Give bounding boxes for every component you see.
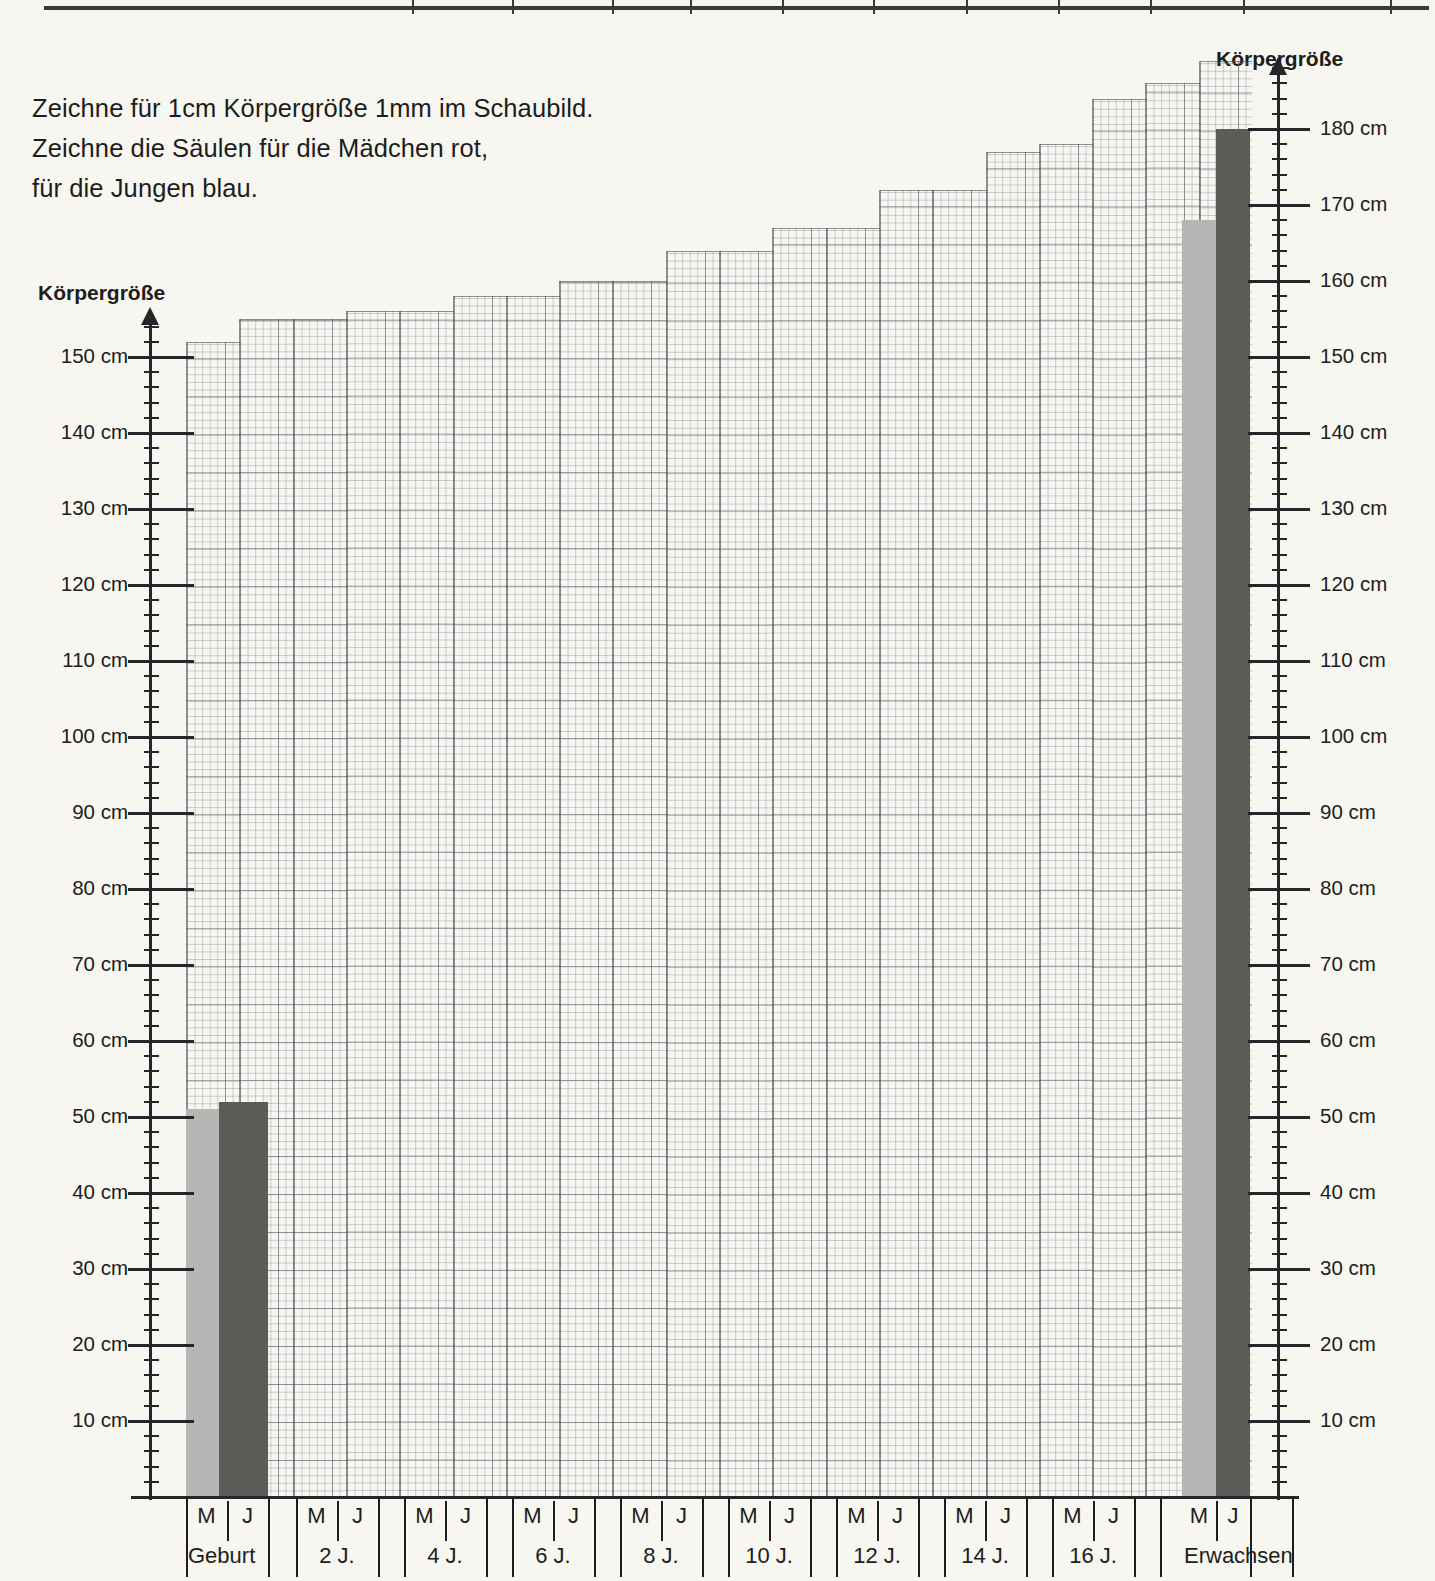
axis-tick-label: 100 cm [20, 724, 128, 748]
axis-tick [1272, 554, 1287, 556]
axis-tick [144, 1207, 159, 1209]
axis-tick [1272, 1435, 1287, 1437]
axis-tick [1272, 599, 1287, 601]
axis-tick [1272, 265, 1287, 267]
axis-tick-major [128, 1268, 194, 1271]
legend-label-girls: M [1182, 1503, 1216, 1529]
legend-category-label: 12 J. [828, 1543, 926, 1569]
axis-tick [144, 1086, 159, 1088]
axis-tick [144, 1162, 159, 1164]
axis-tick [144, 1450, 159, 1452]
axis-tick [1272, 706, 1287, 708]
axis-tick-label: 140 cm [20, 420, 128, 444]
axis-tick [1272, 827, 1287, 829]
axis-tick [1272, 67, 1287, 69]
axis-tick [1272, 538, 1287, 540]
top-rule-tick [690, 0, 692, 14]
axis-tick [144, 1025, 159, 1027]
axis-tick [1272, 918, 1287, 920]
axis-tick [1272, 614, 1287, 616]
axis-tick-major [1248, 888, 1310, 891]
legend-category-label: 2 J. [288, 1543, 386, 1569]
axis-tick-label: 50 cm [20, 1104, 128, 1128]
legend-label-girls: M [1052, 1503, 1093, 1529]
legend-label-girls: M [836, 1503, 877, 1529]
legend-divider [1160, 1499, 1162, 1577]
legend-category-label: 4 J. [396, 1543, 494, 1569]
axis-tick-label: 130 cm [20, 496, 128, 520]
axis-tick [1272, 1101, 1287, 1103]
axis-tick [144, 858, 159, 860]
axis-tick [1272, 98, 1287, 100]
axis-tick [1272, 1466, 1287, 1468]
legend-label-boys: J [227, 1503, 268, 1529]
axis-tick [1272, 174, 1287, 176]
axis-tick [1272, 645, 1287, 647]
axis-tick [1272, 219, 1287, 221]
axis-tick [144, 645, 159, 647]
axis-tick-label: 30 cm [1320, 1256, 1376, 1280]
axis-tick-label: 20 cm [1320, 1332, 1376, 1356]
top-rule-tick [1390, 0, 1392, 14]
page-top-rule [44, 6, 1429, 10]
axis-tick [144, 341, 159, 343]
axis-tick-label: 180 cm [1320, 116, 1387, 140]
axis-tick-label: 40 cm [1320, 1180, 1376, 1204]
axis-tick-label: 70 cm [1320, 952, 1376, 976]
axis-tick-label: 110 cm [1320, 648, 1386, 672]
axis-tick-major [128, 660, 194, 663]
axis-tick-label: 110 cm [20, 648, 128, 672]
axis-tick [1272, 1238, 1287, 1240]
axis-tick-label: 40 cm [20, 1180, 128, 1204]
axis-tick [1272, 1481, 1287, 1483]
axis-tick [1272, 1025, 1287, 1027]
legend-label-boys: J [769, 1503, 810, 1529]
axis-tick [1272, 523, 1287, 525]
axis-tick-major [1248, 964, 1310, 967]
axis-tick [144, 402, 159, 404]
legend-label-boys: J [553, 1503, 594, 1529]
legend-label-girls: M [728, 1503, 769, 1529]
axis-tick [1272, 447, 1287, 449]
axis-tick [144, 934, 159, 936]
axis-tick-major [128, 1192, 194, 1195]
bar-girls [1182, 220, 1216, 1497]
axis-tick-label: 80 cm [1320, 876, 1376, 900]
bar-boys [219, 1102, 268, 1497]
axis-tick [1272, 493, 1287, 495]
axis-tick [1272, 675, 1287, 677]
axis-tick-label: 130 cm [1320, 496, 1387, 520]
category-legend: MJGeburtMJ2 J.MJ4 J.MJ6 J.MJ8 J.MJ10 J.M… [131, 1499, 1311, 1579]
bar-boys [1216, 129, 1250, 1497]
legend-category-label: 14 J. [936, 1543, 1034, 1569]
axis-tick-label: 140 cm [1320, 420, 1387, 444]
axis-tick [144, 523, 159, 525]
axis-tick [144, 1329, 159, 1331]
axis-tick-major [128, 432, 194, 435]
axis-tick [1272, 386, 1287, 388]
axis-tick [144, 1131, 159, 1133]
axis-tick-major [1248, 584, 1310, 587]
axis-tick [1272, 234, 1287, 236]
axis-tick [144, 386, 159, 388]
axis-tick [144, 873, 159, 875]
axis-tick [1272, 402, 1287, 404]
axis-tick [1272, 842, 1287, 844]
axis-tick [1272, 934, 1287, 936]
legend-label-boys: J [445, 1503, 486, 1529]
axis-tick-major [128, 888, 194, 891]
axis-tick [1272, 1177, 1287, 1179]
axis-tick-major [1248, 660, 1310, 663]
axis-tick [1272, 1010, 1287, 1012]
axis-tick [1272, 630, 1287, 632]
axis-tick [1272, 1450, 1287, 1452]
axis-tick [144, 478, 159, 480]
axis-tick [1272, 1405, 1287, 1407]
axis-tick [1272, 1374, 1287, 1376]
top-rule-tick [412, 0, 414, 14]
axis-tick [1272, 721, 1287, 723]
axis-tick-label: 100 cm [1320, 724, 1387, 748]
axis-tick [144, 1238, 159, 1240]
legend-label-boys: J [661, 1503, 702, 1529]
axis-tick-label: 120 cm [1320, 572, 1387, 596]
